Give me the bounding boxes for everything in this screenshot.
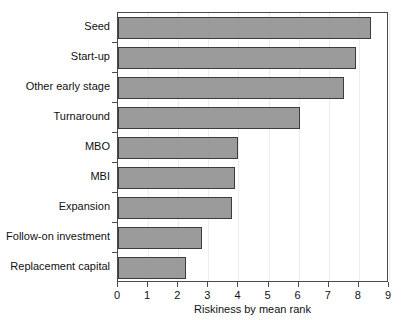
bar [118, 47, 356, 69]
bar-row [118, 257, 389, 279]
plot-area [117, 12, 388, 282]
bar-row [118, 137, 389, 159]
y-axis-tick-label: Replacement capital [0, 261, 110, 272]
y-axis-tick [112, 222, 117, 223]
bar-row [118, 107, 389, 129]
y-axis-tick-label: Expansion [0, 201, 110, 212]
y-axis-tick [112, 162, 117, 163]
x-axis-tick-label: 5 [253, 289, 283, 301]
x-axis-tick-label: 3 [192, 289, 222, 301]
x-axis-tick-label: 4 [222, 289, 252, 301]
x-axis-tick [177, 282, 178, 287]
x-axis-tick-label: 7 [313, 289, 343, 301]
bar-row [118, 227, 389, 249]
y-axis-tick-label: Other early stage [0, 81, 110, 92]
y-axis-tick-label: Follow-on investment [0, 231, 110, 242]
bar [118, 17, 371, 39]
y-axis-tick [112, 252, 117, 253]
x-axis-tick [388, 282, 389, 287]
y-axis-tick-label: Seed [0, 21, 110, 32]
y-axis-tick [112, 192, 117, 193]
y-axis-tick [112, 72, 117, 73]
x-axis-tick [117, 282, 118, 287]
x-axis-tick-label: 1 [132, 289, 162, 301]
x-axis-tick-label: 9 [373, 289, 403, 301]
x-axis-tick [298, 282, 299, 287]
bar [118, 197, 232, 219]
x-axis-tick-label: 6 [283, 289, 313, 301]
gridline [389, 13, 390, 281]
x-axis-tick-label: 8 [343, 289, 373, 301]
y-axis-tick-label: Start-up [0, 51, 110, 62]
x-axis-tick [268, 282, 269, 287]
bar-row [118, 17, 389, 39]
y-axis-tick [112, 102, 117, 103]
bar-row [118, 197, 389, 219]
bar [118, 167, 235, 189]
bar [118, 77, 344, 99]
bar-chart: SeedStart-upOther early stageTurnaroundM… [0, 0, 410, 320]
y-axis-tick-label: MBO [0, 141, 110, 152]
y-axis-tick [112, 132, 117, 133]
bar [118, 137, 238, 159]
y-axis-tick-label: Turnaround [0, 111, 110, 122]
x-axis-tick [358, 282, 359, 287]
x-axis-tick-label: 0 [102, 289, 132, 301]
y-axis-tick-label: MBI [0, 171, 110, 182]
bar [118, 227, 202, 249]
bar [118, 107, 300, 129]
x-axis-tick-label: 2 [162, 289, 192, 301]
bar-row [118, 77, 389, 99]
x-axis-tick [328, 282, 329, 287]
y-axis-tick [112, 42, 117, 43]
bar [118, 257, 186, 279]
bar-row [118, 167, 389, 189]
bar-row [118, 47, 389, 69]
x-axis-tick [237, 282, 238, 287]
x-axis-tick [207, 282, 208, 287]
x-axis-title: Riskiness by mean rank [117, 303, 388, 315]
x-axis-tick [147, 282, 148, 287]
